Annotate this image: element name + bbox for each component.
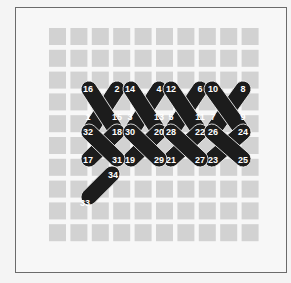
stitch-number-label: 12 [166, 84, 176, 94]
stitch-number-label: 18 [112, 127, 122, 137]
canvas-square [242, 28, 259, 45]
canvas-square [92, 28, 109, 45]
canvas-square [177, 181, 194, 198]
stitch-number-label: 2 [114, 84, 119, 94]
stitch-number-label: 32 [83, 127, 93, 137]
stitch-number-label: 16 [83, 84, 93, 94]
canvas-square [49, 159, 66, 176]
canvas-square [177, 202, 194, 219]
canvas-square [113, 181, 130, 198]
canvas-square [156, 224, 173, 241]
stitch-number-label: 1 [85, 112, 90, 122]
stitch-number-label: 34 [108, 170, 118, 180]
canvas-square [49, 115, 66, 132]
canvas-square [49, 72, 66, 89]
canvas-square [113, 202, 130, 219]
stitch-number-label: 6 [197, 84, 202, 94]
stitch-number-label: 9 [240, 112, 245, 122]
canvas-square [135, 28, 152, 45]
canvas-square [199, 224, 216, 241]
canvas-square [49, 93, 66, 110]
stitch-number-label: 24 [238, 127, 248, 137]
canvas-square [156, 28, 173, 45]
stitch-number-label: 13 [154, 112, 164, 122]
stitch-number-label: 20 [154, 127, 164, 137]
stitch-number-label: 27 [195, 155, 205, 165]
canvas-square [113, 28, 130, 45]
stitch-number-label: 4 [156, 84, 161, 94]
stitch-number-label: 23 [208, 155, 218, 165]
stitch-number-label: 5 [168, 112, 173, 122]
canvas-square [220, 28, 237, 45]
stitch-number-label: 31 [112, 155, 122, 165]
canvas-square [177, 50, 194, 67]
stitch-number-label: 33 [80, 198, 90, 208]
canvas-square [220, 72, 237, 89]
canvas-square [135, 224, 152, 241]
canvas-square [199, 202, 216, 219]
canvas-square [135, 181, 152, 198]
canvas-square [92, 202, 109, 219]
canvas-square [220, 224, 237, 241]
cross-stitch-diagram: 1621441261081153135117932183020282226241… [0, 0, 291, 283]
canvas-square [49, 137, 66, 154]
canvas-square [220, 50, 237, 67]
canvas-square [156, 50, 173, 67]
stitch-number-label: 22 [195, 127, 205, 137]
stitch-number-label: 19 [125, 155, 135, 165]
canvas-square [92, 224, 109, 241]
canvas-square [177, 224, 194, 241]
stitch-number-label: 8 [240, 84, 245, 94]
stitch-number-label: 21 [166, 155, 176, 165]
canvas-square [113, 224, 130, 241]
canvas-square [70, 28, 87, 45]
canvas-square [220, 202, 237, 219]
canvas-square [242, 50, 259, 67]
canvas-square [70, 224, 87, 241]
stitch-number-label: 15 [112, 112, 122, 122]
canvas-square [49, 181, 66, 198]
canvas-square [177, 72, 194, 89]
canvas-square [49, 28, 66, 45]
canvas-square [135, 50, 152, 67]
canvas-square [242, 224, 259, 241]
canvas-square [156, 181, 173, 198]
stitch-number-label: 7 [210, 112, 215, 122]
canvas-square [199, 50, 216, 67]
stitch-number-label: 11 [195, 112, 205, 122]
canvas-square [199, 28, 216, 45]
canvas-square [135, 202, 152, 219]
canvas-square [177, 28, 194, 45]
canvas-square [156, 202, 173, 219]
stitch-number-label: 30 [125, 127, 135, 137]
canvas-square [242, 202, 259, 219]
stitch-number-label: 3 [127, 112, 132, 122]
canvas-square [199, 181, 216, 198]
canvas-square [49, 50, 66, 67]
canvas-square [242, 181, 259, 198]
canvas-square [113, 50, 130, 67]
stitch-number-label: 14 [125, 84, 135, 94]
canvas-square [220, 181, 237, 198]
stitch-number-label: 25 [238, 155, 248, 165]
stitch-number-label: 10 [208, 84, 218, 94]
stitch-number-label: 29 [154, 155, 164, 165]
stitch-number-label: 17 [83, 155, 93, 165]
stitch-number-label: 26 [208, 127, 218, 137]
canvas-square [92, 50, 109, 67]
canvas-square [49, 202, 66, 219]
canvas-square [49, 224, 66, 241]
stitch-number-label: 28 [166, 127, 176, 137]
canvas-square [70, 50, 87, 67]
